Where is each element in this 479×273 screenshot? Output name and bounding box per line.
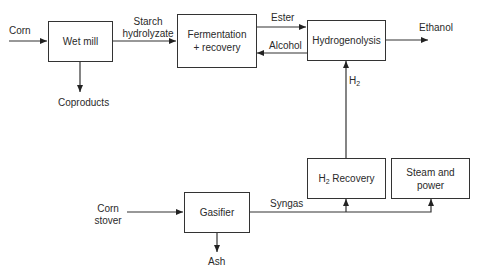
- h2-label: H2: [349, 75, 360, 87]
- steam-label-line2: power: [406, 179, 454, 192]
- h2-recovery-label: H2 Recovery: [318, 172, 374, 185]
- h2-recovery-box: H2 Recovery: [307, 158, 386, 199]
- coproducts-label: Coproducts: [58, 97, 109, 109]
- wet-mill-box: Wet mill: [48, 21, 113, 62]
- corn-stover-line2: stover: [92, 215, 124, 227]
- fermentation-label-line2: + recovery: [188, 41, 247, 54]
- steam-power-box: Steam and power: [391, 158, 470, 199]
- ester-label: Ester: [271, 12, 294, 24]
- h2-recovery-prefix: H: [318, 173, 325, 184]
- ethanol-label: Ethanol: [419, 22, 453, 34]
- starch-label-line2: hydrolyzate: [120, 28, 176, 40]
- corn-label: Corn: [9, 25, 31, 37]
- wet-mill-label: Wet mill: [63, 35, 98, 48]
- alcohol-label: Alcohol: [269, 40, 302, 52]
- gasifier-label: Gasifier: [200, 206, 234, 219]
- corn-stover-label: Corn stover: [92, 203, 124, 227]
- starch-hydrolyzate-label: Starch hydrolyzate: [120, 16, 176, 40]
- corn-stover-line1: Corn: [92, 203, 124, 215]
- h2-subscript: 2: [356, 80, 360, 87]
- gasifier-box: Gasifier: [184, 192, 250, 233]
- starch-label-line1: Starch: [120, 16, 176, 28]
- hydrogenolysis-label: Hydrogenolysis: [312, 34, 380, 47]
- ash-label: Ash: [208, 256, 225, 268]
- fermentation-box: Fermentation + recovery: [177, 14, 257, 68]
- fermentation-label-line1: Fermentation: [188, 28, 247, 41]
- hydrogenolysis-box: Hydrogenolysis: [307, 20, 386, 61]
- h2-recovery-suffix: Recovery: [330, 173, 375, 184]
- steam-label-line1: Steam and: [406, 166, 454, 179]
- syngas-label: Syngas: [270, 198, 303, 210]
